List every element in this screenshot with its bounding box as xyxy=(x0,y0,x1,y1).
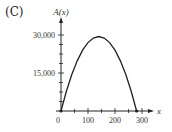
endpoint-start xyxy=(59,109,62,112)
y-tick-label-15000: 15,000 xyxy=(33,69,55,78)
x-axis-arrow-icon xyxy=(148,109,154,113)
y-tick-label-30000: 30,000 xyxy=(33,31,55,40)
x-tick-label-0: 0 xyxy=(56,116,60,125)
y-axis-arrow-icon xyxy=(59,17,63,23)
x-tick-label-200: 200 xyxy=(109,116,121,125)
chart: 30,000 15,000 0 100 200 300 A(x) x xyxy=(0,0,172,132)
x-tick-label-100: 100 xyxy=(82,116,94,125)
x-axis-title: x xyxy=(156,106,161,116)
x-tick-label-300: 300 xyxy=(136,116,148,125)
y-axis-title: A(x) xyxy=(52,7,69,17)
endpoint-end xyxy=(135,109,138,112)
curve-A-of-x xyxy=(61,37,137,111)
